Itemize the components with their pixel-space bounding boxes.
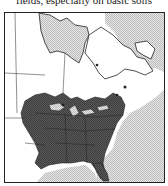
range-outlier-dot bbox=[124, 86, 127, 89]
range-outlier-dot bbox=[62, 104, 65, 107]
gulf-of-mexico bbox=[35, 165, 97, 183]
hudson-bay bbox=[39, 13, 89, 63]
range-outlier-dot bbox=[116, 94, 119, 97]
range-map bbox=[4, 12, 165, 183]
map-svg bbox=[5, 13, 165, 183]
range-outlier-dot bbox=[96, 64, 99, 67]
caption-text: fields, especially on basic soils bbox=[0, 0, 168, 6]
